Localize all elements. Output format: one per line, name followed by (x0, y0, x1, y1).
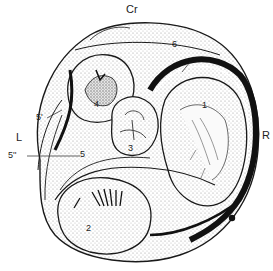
label-cranial: Cr (126, 4, 138, 15)
label-left: L (16, 132, 22, 143)
label-structure-2: 2 (86, 224, 91, 233)
label-structure-5-prime: 5' (36, 113, 43, 122)
anatomical-drawing (0, 0, 273, 271)
label-structure-4: 4 (94, 100, 99, 109)
label-structure-3: 3 (128, 144, 133, 153)
heart-valves-diagram: Cr L R 1 2 3 4 5 5' 5'' 6 (0, 0, 273, 271)
label-structure-5: 5 (80, 150, 85, 159)
structure-3-aortic (112, 97, 159, 156)
label-right: R (262, 130, 270, 141)
label-structure-5-double-prime: 5'' (8, 151, 16, 160)
label-structure-1: 1 (202, 101, 207, 110)
label-structure-6: 6 (172, 40, 177, 49)
